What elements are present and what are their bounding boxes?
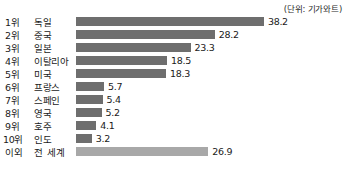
chart-row: 8위영국5.2 — [0, 106, 348, 119]
row-bar — [76, 69, 166, 78]
row-bar — [76, 82, 104, 91]
chart-row: 5위미국18.3 — [0, 67, 348, 80]
chart-row: 이외전 세계26.9 — [0, 145, 348, 158]
row-value-label: 18.3 — [170, 68, 190, 79]
row-bar-area — [76, 108, 102, 117]
chart-rows: 1위독일38.22위중국28.23위일본23.34위이탈리아18.55위미국18… — [0, 15, 348, 158]
row-bar-area — [76, 82, 104, 91]
row-category-label: 독일 — [34, 15, 51, 29]
row-value-label: 18.5 — [171, 55, 191, 66]
row-value-label: 26.9 — [212, 146, 232, 157]
row-rank: 4위 — [5, 54, 31, 68]
row-value-label: 5.4 — [107, 94, 121, 105]
row-bar-area — [76, 121, 96, 130]
row-bar — [76, 108, 102, 117]
row-value-label: 5.2 — [106, 107, 120, 118]
row-value-label: 28.2 — [219, 29, 239, 40]
row-category-label: 호주 — [34, 119, 51, 133]
row-rank: 10위 — [3, 132, 33, 146]
chart-row: 6위프랑스5.7 — [0, 80, 348, 93]
chart-row: 1위독일38.2 — [0, 15, 348, 28]
row-bar-area — [76, 30, 215, 39]
row-category-label: 일본 — [34, 41, 51, 55]
row-rank: 이외 — [5, 145, 31, 159]
chart-row: 3위일본23.3 — [0, 41, 348, 54]
row-category-label: 스페인 — [34, 93, 60, 107]
unit-note: (단위: 기가와트) — [284, 2, 342, 14]
chart-row: 2위중국28.2 — [0, 28, 348, 41]
chart-row: 9위호주4.1 — [0, 119, 348, 132]
row-bar-area — [76, 43, 191, 52]
row-category-label: 프랑스 — [34, 80, 60, 94]
row-rank: 1위 — [5, 15, 31, 29]
row-rank: 2위 — [5, 28, 31, 42]
row-value-label: 38.2 — [268, 16, 288, 27]
row-bar-area — [76, 69, 166, 78]
row-bar-area — [76, 147, 208, 156]
row-rank: 3위 — [5, 41, 31, 55]
row-bar-area — [76, 56, 167, 65]
row-category-label: 미국 — [34, 67, 51, 81]
row-value-label: 5.7 — [108, 81, 122, 92]
chart-row: 4위이탈리아18.5 — [0, 54, 348, 67]
row-bar — [76, 95, 103, 104]
row-category-label: 이탈리아 — [34, 54, 68, 68]
row-bar-area — [76, 134, 92, 143]
row-bar-area — [76, 95, 103, 104]
row-bar — [76, 30, 215, 39]
row-rank: 7위 — [5, 93, 31, 107]
row-bar — [76, 17, 264, 26]
row-bar — [76, 134, 92, 143]
chart-row: 7위스페인5.4 — [0, 93, 348, 106]
row-value-label: 3.2 — [96, 133, 110, 144]
row-bar — [76, 121, 96, 130]
row-value-label: 23.3 — [195, 42, 215, 53]
row-value-label: 4.1 — [100, 120, 114, 131]
row-category-label: 전 세계 — [34, 145, 66, 159]
row-bar — [76, 43, 191, 52]
bar-chart: (단위: 기가와트) 1위독일38.22위중국28.23위일본23.34위이탈리… — [0, 0, 348, 175]
row-rank: 9위 — [5, 119, 31, 133]
row-category-label: 중국 — [34, 28, 51, 42]
row-bar-area — [76, 17, 264, 26]
row-rank: 6위 — [5, 80, 31, 94]
row-category-label: 인도 — [34, 132, 51, 146]
row-rank: 5위 — [5, 67, 31, 81]
row-bar — [76, 147, 208, 156]
row-rank: 8위 — [5, 106, 31, 120]
chart-row: 10위인도3.2 — [0, 132, 348, 145]
row-bar — [76, 56, 167, 65]
row-category-label: 영국 — [34, 106, 51, 120]
